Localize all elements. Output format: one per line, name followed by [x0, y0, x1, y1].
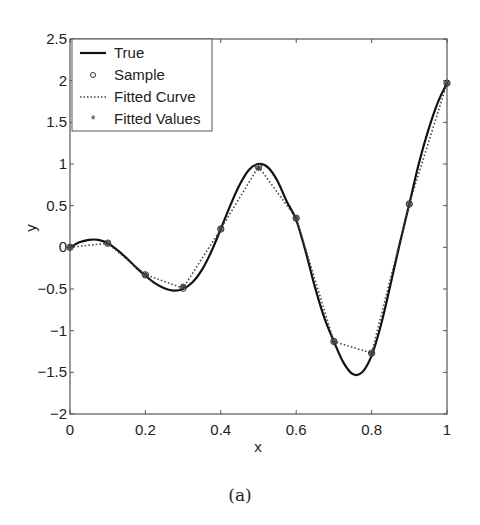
fitted-value-marker — [444, 80, 450, 86]
fitted-value-marker — [406, 201, 412, 207]
legend-true-label: True — [114, 44, 144, 61]
x-tick-label: 0.8 — [361, 421, 382, 438]
y-tick-label: 1 — [59, 155, 67, 172]
legend-fitted-values-label: Fitted Values — [114, 110, 200, 127]
x-tick-label: 0.4 — [210, 421, 231, 438]
y-axis-label: y — [22, 224, 39, 232]
y-tick-label: −1.5 — [37, 363, 67, 380]
y-tick-label: 2.5 — [46, 30, 67, 47]
y-tick-label: −1 — [50, 322, 67, 339]
fitted-value-marker — [369, 350, 375, 356]
legend-fitted-values-swatch: * — [91, 113, 96, 127]
fitted-value-marker — [218, 226, 224, 232]
legend-sample-label: Sample — [114, 66, 165, 83]
legend-fitted-curve-label: Fitted Curve — [114, 88, 196, 105]
x-tick-label: 1 — [443, 421, 451, 438]
fitted-value-marker — [256, 165, 262, 171]
fitted-value-marker — [331, 339, 337, 345]
fitted-value-marker — [105, 240, 111, 246]
x-axis-label: x — [254, 438, 262, 455]
y-tick-labels: −2−1.5−1−0.500.511.522.5 — [37, 30, 67, 422]
y-tick-label: 0 — [59, 238, 67, 255]
y-tick-label: −0.5 — [37, 280, 67, 297]
x-tick-label: 0 — [66, 421, 74, 438]
legend: True Sample Fitted Curve * Fitted Values — [72, 39, 212, 131]
fitted-value-marker — [293, 215, 299, 221]
x-tick-label: 0.6 — [286, 421, 307, 438]
figure-caption: (a) — [0, 485, 480, 505]
y-tick-label: −2 — [50, 405, 67, 422]
fitted-value-marker — [67, 244, 73, 250]
y-tick-label: 1.5 — [46, 113, 67, 130]
y-tick-label: 2 — [59, 72, 67, 89]
x-tick-label: 0.2 — [135, 421, 156, 438]
x-tick-labels: 00.20.40.60.81 — [66, 421, 451, 438]
fitted-value-marker — [180, 284, 186, 290]
y-tick-label: 0.5 — [46, 197, 67, 214]
chart: 00.20.40.60.81 −2−1.5−1−0.500.511.522.5 … — [0, 0, 480, 480]
fitted-value-marker — [142, 272, 148, 278]
